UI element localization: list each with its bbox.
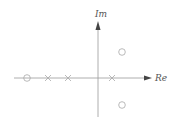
pole-zero-diagram: Re Im (0, 0, 173, 126)
real-axis-label: Re (154, 73, 167, 83)
zero-marker-lower (119, 102, 126, 109)
zero-marker-upper (119, 49, 126, 56)
imaginary-axis-label: Im (94, 9, 107, 19)
imaginary-axis-arrow-icon (96, 21, 101, 30)
real-axis-arrow-icon (144, 76, 152, 81)
